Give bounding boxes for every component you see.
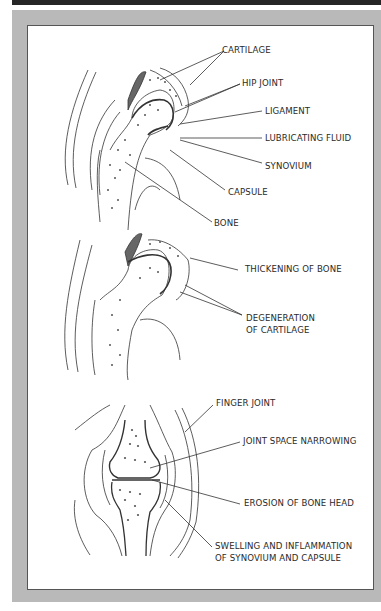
label-erosion-of-bone-head: EROSION OF BONE HEAD (244, 498, 354, 509)
label-capsule: CAPSULE (228, 187, 268, 198)
normal-hip-illustration (65, 51, 262, 230)
label-swelling-line1: SWELLING AND INFLAMMATION (215, 541, 352, 552)
label-hip-joint: HIP JOINT (242, 78, 283, 89)
label-joint-space-narrowing: JOINT SPACE NARROWING (243, 436, 356, 447)
label-ligament: LIGAMENT (265, 106, 310, 117)
label-cartilage: CARTILAGE (222, 45, 271, 56)
label-thickening-of-bone: THICKENING OF BONE (245, 264, 342, 275)
joint-illustrations (0, 0, 381, 611)
label-synovium: SYNOVIUM (265, 161, 312, 172)
arthritic-hip-illustration (65, 234, 242, 380)
label-degeneration-line1: DEGENERATION (246, 313, 315, 324)
label-finger-joint: FINGER JOINT (216, 398, 275, 409)
label-lubricating-fluid: LUBRICATING FLUID (265, 133, 351, 144)
finger-joint-illustration (74, 405, 240, 558)
label-degeneration-line2: OF CARTILAGE (246, 325, 309, 336)
label-swelling-line2: OF SYNOVIUM AND CAPSULE (215, 553, 341, 564)
label-bone: BONE (214, 218, 239, 229)
